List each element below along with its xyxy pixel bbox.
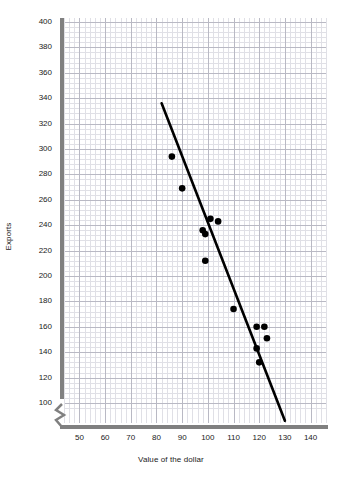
data-point	[215, 218, 222, 225]
x-tick-label: 70	[119, 433, 143, 442]
x-tick-label: 120	[247, 433, 271, 442]
x-tick-label: 50	[67, 433, 91, 442]
y-tick-label: 340	[22, 93, 52, 102]
scatter-chart-figure: Exports Value of the dollar 100120140160…	[0, 0, 342, 479]
y-tick-label: 400	[22, 17, 52, 26]
y-tick-label: 100	[22, 398, 52, 407]
y-tick-label: 300	[22, 144, 52, 153]
x-tick-label: 130	[273, 433, 297, 442]
grid-minor-lines	[65, 18, 327, 423]
x-tick-label: 80	[144, 433, 168, 442]
y-tick-label: 120	[22, 373, 52, 382]
y-tick-label: 260	[22, 195, 52, 204]
y-tick-label: 280	[22, 169, 52, 178]
y-tick-label: 360	[22, 68, 52, 77]
y-axis-title: Exports	[4, 207, 13, 267]
y-tick-label: 240	[22, 220, 52, 229]
data-point	[179, 185, 186, 192]
data-point	[256, 359, 263, 366]
x-axis-spine	[60, 425, 328, 429]
x-tick-label: 90	[170, 433, 194, 442]
x-tick-label: 100	[196, 433, 220, 442]
data-point	[202, 231, 209, 238]
data-point	[169, 153, 176, 160]
data-point	[202, 257, 209, 264]
x-tick-label: 60	[93, 433, 117, 442]
x-tick-label: 110	[222, 433, 246, 442]
y-tick-label: 380	[22, 42, 52, 51]
data-point	[261, 324, 268, 331]
y-tick-label: 140	[22, 347, 52, 356]
y-tick-label: 320	[22, 119, 52, 128]
y-tick-label: 160	[22, 322, 52, 331]
data-point	[264, 335, 271, 342]
x-tick-label: 140	[299, 433, 323, 442]
y-axis-spine	[60, 18, 64, 399]
data-point	[207, 216, 214, 223]
x-axis-title: Value of the dollar	[0, 455, 342, 464]
y-tick-label: 220	[22, 246, 52, 255]
y-tick-label: 180	[22, 296, 52, 305]
data-point	[253, 345, 260, 352]
data-point	[230, 306, 237, 313]
data-point	[253, 324, 260, 331]
y-tick-label: 200	[22, 271, 52, 280]
